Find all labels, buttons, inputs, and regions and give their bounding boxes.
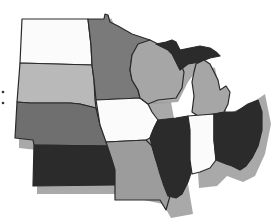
state-kansas[interactable]: Kansas [33,145,115,186]
state-iowa[interactable]: Iowa [96,98,158,142]
state-michigan-lower[interactable]: Michigan (Lower Peninsula) [192,60,230,116]
state-indiana[interactable]: Indiana [188,114,216,174]
edge-markers [2,91,5,105]
state-north-dakota[interactable]: North Dakota [20,19,92,65]
edge-dot [2,102,5,105]
edge-dot [2,91,5,94]
state-south-dakota[interactable]: South Dakota [17,63,96,108]
state-nebraska[interactable]: Nebraska [15,102,110,146]
midwest-map: North Dakota South Dakota Nebraska Kansa… [0,0,280,220]
